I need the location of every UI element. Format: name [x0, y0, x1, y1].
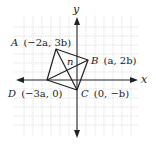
point-a-coords: (−2a, 3b)	[23, 37, 71, 48]
point-c-label: C (0, −b)	[81, 88, 129, 99]
point-d-coords: (−3a, 0)	[21, 88, 62, 99]
point-a-name: A	[10, 37, 18, 48]
grid	[14, 16, 138, 135]
axes	[16, 17, 138, 138]
point-d-name: D	[7, 88, 16, 99]
y-axis-arrow-up-icon	[74, 17, 80, 25]
point-d-label: D (−3a, 0)	[7, 88, 63, 99]
diagram-canvas: y x A (−2a, 3b) B (a, 2b) C (0, −b) D (−…	[0, 0, 156, 148]
x-axis-arrow-right-icon	[130, 77, 138, 83]
intersection-label: n	[67, 56, 73, 67]
point-b-coords: (a, 2b)	[104, 55, 137, 66]
point-c-coords: (0, −b)	[94, 88, 129, 99]
point-a-label: A (−2a, 3b)	[10, 37, 71, 48]
coordinate-diagram: y x A (−2a, 3b) B (a, 2b) C (0, −b) D (−…	[0, 0, 156, 148]
point-b-name: B	[90, 55, 98, 66]
point-b-label: B (a, 2b)	[90, 55, 137, 66]
x-axis-arrow-left-icon	[16, 77, 24, 83]
y-axis-arrow-down-icon	[74, 130, 80, 138]
y-axis-label: y	[72, 3, 80, 16]
x-axis-label: x	[141, 73, 148, 86]
point-c-name: C	[81, 88, 89, 99]
